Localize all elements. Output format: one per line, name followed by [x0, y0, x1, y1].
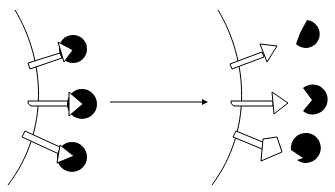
receptor-stalk [230, 52, 264, 69]
released-state-panel [212, 10, 328, 185]
cell-membrane [8, 10, 39, 185]
ligand-released [291, 133, 321, 163]
arrowhead-icon [202, 99, 208, 105]
ligand-released [303, 85, 328, 115]
receptor-top-released [230, 20, 320, 69]
receptor-middle-released [231, 85, 328, 115]
receptor-bottom-released [233, 131, 321, 163]
receptor-head [261, 137, 282, 161]
receptor-top-bound [28, 35, 87, 69]
cell-membrane [212, 10, 242, 185]
receptor-stalk [231, 101, 273, 106]
receptor-head [272, 92, 288, 114]
receptor-bottom-bound [22, 131, 87, 172]
diagram-canvas [0, 0, 335, 192]
receptor-stalk [28, 53, 62, 69]
receptor-stalk [28, 101, 70, 106]
transition-arrow [110, 99, 208, 105]
bound-state-panel [8, 10, 97, 185]
